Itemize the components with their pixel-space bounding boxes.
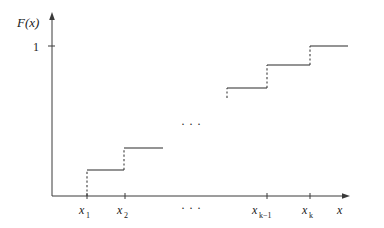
x-axis-arrowhead [342,193,350,199]
mid-plot-ellipsis: · · · [181,117,202,131]
y-axis [49,12,55,196]
x-tick-label-1: x 1 [78,203,90,220]
x-tick-label-2-subscript: 2 [124,211,128,220]
x-tick-label-km1-subscript: k−1 [259,211,272,220]
x-tick-label-1-subscript: 1 [86,211,90,220]
x-tick-label-1-base: x [78,203,85,217]
x-tick-label-km1: x k−1 [251,203,272,220]
x-tick-label-2-base: x [116,203,123,217]
y-axis-arrowhead [49,12,55,20]
x-tick-label-k-base: x [301,203,308,217]
y-axis-label: F(x) [16,15,39,30]
x-axis-ellipsis: · · · [181,201,202,215]
step-plateaus [87,46,348,170]
x-axis-label: x [336,203,343,217]
x-tick-label-2: x 2 [116,203,128,220]
x-tick-label-km1-base: x [251,203,258,217]
cdf-step-chart: F(x) 1 x x 1 x 2 · · · x k−1 x k · · · [0,0,384,228]
y-tick-label-one: 1 [33,40,39,54]
x-tick-label-k: x k [301,203,313,220]
x-axis [52,193,350,199]
figure-canvas: F(x) 1 x x 1 x 2 · · · x k−1 x k · · · [0,0,384,228]
x-tick-label-k-subscript: k [309,211,313,220]
